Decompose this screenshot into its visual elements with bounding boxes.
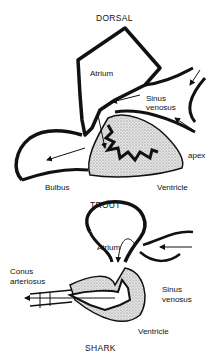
trout-apex-label: apex — [188, 151, 205, 160]
trout-sinus-label-1: Sinus — [146, 94, 166, 103]
shark-sinus-label-2: venosus — [162, 295, 192, 304]
shark-atrium-label: Atrium — [97, 243, 120, 252]
trout-sinus-label-2: venosus — [146, 103, 176, 112]
trout-title: TROUT — [90, 200, 121, 210]
heart-diagram — [0, 0, 215, 362]
trout-atrium-label: Atrium — [90, 69, 113, 78]
trout-heart — [16, 28, 205, 180]
shark-conus-label-1: Conus — [10, 267, 33, 276]
trout-ventricle-label: Ventricle — [157, 183, 188, 192]
shark-ventricle-label: Ventricle — [138, 327, 169, 336]
shark-conus-label-2: arteriosus — [10, 277, 45, 286]
shark-title: SHARK — [85, 343, 116, 353]
trout-bulbus-label: Bulbus — [45, 183, 69, 192]
shark-sinus-label-1: Sinus — [162, 285, 182, 294]
orientation-label: DORSAL — [96, 13, 133, 23]
